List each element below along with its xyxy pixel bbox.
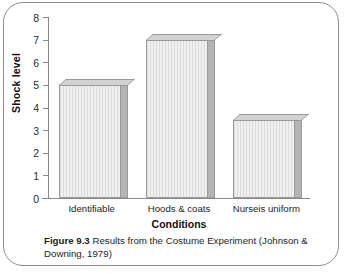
bar [59,79,121,198]
bar-front-face [146,40,208,198]
figure-caption: Figure 9.3 Results from the Costume Expe… [44,234,312,260]
bar-chart-plot-area: 012345678 IdentifiableHoods & coatsNurse… [48,17,310,199]
bar-side-face [208,40,215,198]
y-axis-tick: 4 [43,108,48,109]
x-axis-category-label: Hoods & coats [135,203,222,214]
y-axis-tick-label: 7 [33,34,39,46]
bar-side-face [121,85,128,198]
figure-frame: Shock level 012345678 IdentifiableHoods … [3,2,339,266]
x-axis-category-label: Identifiable [48,203,135,214]
y-axis-tick: 0 [43,198,48,199]
y-axis-tick-label: 1 [33,170,39,182]
bar-side-face [295,120,302,198]
y-axis-tick: 3 [43,130,48,131]
x-axis-title: Conditions [48,218,310,230]
y-axis-tick-label: 5 [33,79,39,91]
y-axis-tick: 2 [43,153,48,154]
x-axis-line [42,198,310,199]
y-axis-tick: 5 [43,85,48,86]
y-axis-tick: 7 [43,40,48,41]
x-axis-category-label: Nurseis uniform [223,203,310,214]
bar-front-face [233,120,295,198]
figure-caption-label: Figure 9.3 [44,235,90,246]
y-axis-tick: 8 [43,17,48,18]
y-axis-tick-label: 2 [33,147,39,159]
y-axis-tick: 6 [43,62,48,63]
y-axis-tick-label: 0 [33,193,39,205]
y-axis-tick-label: 3 [33,125,39,137]
y-axis-tick: 1 [43,175,48,176]
bar [146,34,208,198]
y-axis-tick-label: 4 [33,102,39,114]
y-axis-tick-label: 8 [33,12,39,24]
y-axis-line [48,17,49,199]
bar-front-face [59,85,121,198]
y-axis-title: Shock level [10,53,24,113]
bar [233,114,295,198]
y-axis-tick-label: 6 [33,57,39,69]
